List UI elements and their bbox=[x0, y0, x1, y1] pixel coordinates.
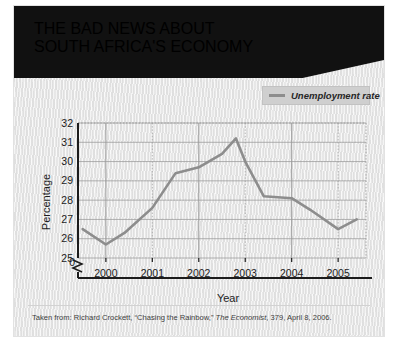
gridlines bbox=[78, 123, 366, 258]
line-chart-svg: 2526272829303132 20002001200220032004200… bbox=[14, 6, 384, 336]
y-tick-label: 32 bbox=[61, 117, 73, 129]
figure-panel: THE BAD NEWS ABOUT SOUTH AFRICA'S ECONOM… bbox=[14, 6, 384, 336]
x-axis-label: Year bbox=[217, 292, 240, 304]
x-tick-label: 2001 bbox=[141, 267, 165, 279]
x-tick-label: 2000 bbox=[94, 267, 118, 279]
y-tick-labels: 2526272829303132 bbox=[61, 117, 73, 264]
y-tick-label: 27 bbox=[61, 213, 73, 225]
y-tick-label: 30 bbox=[61, 155, 73, 167]
footnote-divider bbox=[28, 305, 370, 306]
footnote-prefix: Taken from: Richard Crockett, “Chasing t… bbox=[32, 313, 216, 322]
y-tick-label: 28 bbox=[61, 194, 73, 206]
y-tick-label: 29 bbox=[61, 174, 73, 186]
series-line-unemployment-rate bbox=[83, 138, 357, 244]
x-tick-label: 2003 bbox=[234, 267, 258, 279]
y-tick-label: 31 bbox=[61, 136, 73, 148]
y-tick-label-zero: 0 bbox=[69, 256, 75, 268]
x-tick-label: 2005 bbox=[326, 267, 350, 279]
footnote-suffix: , 379, April 8, 2006. bbox=[266, 313, 331, 322]
y-tick-label: 26 bbox=[61, 232, 73, 244]
plot-area: 2526272829303132 20002001200220032004200… bbox=[14, 6, 384, 336]
x-tick-label: 2004 bbox=[280, 267, 304, 279]
y-axis-label: Percentage bbox=[40, 174, 52, 230]
footnote-source: The Economist bbox=[216, 313, 267, 322]
footnote: Taken from: Richard Crockett, “Chasing t… bbox=[32, 313, 372, 322]
x-tick-label: 2002 bbox=[187, 267, 211, 279]
